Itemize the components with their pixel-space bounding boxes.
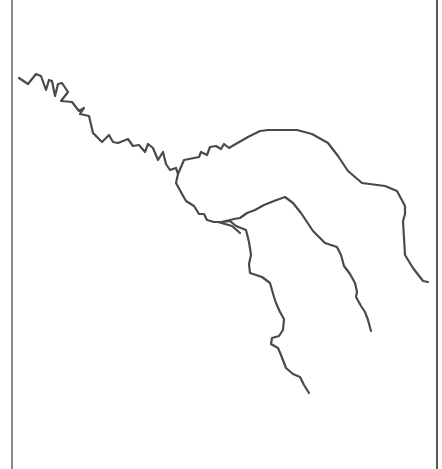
river-main-stem xyxy=(19,74,178,174)
river-middle-branch xyxy=(222,197,371,331)
river-north-branch xyxy=(178,130,428,282)
river-junction-spur xyxy=(218,222,240,233)
river-southwest-loop xyxy=(176,174,309,393)
river-network-map xyxy=(0,0,442,469)
